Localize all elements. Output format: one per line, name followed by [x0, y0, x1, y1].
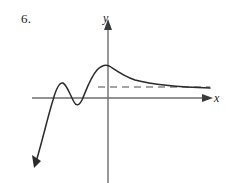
x-axis-label: x: [213, 91, 220, 105]
figure-container: 6. x y: [0, 0, 230, 183]
x-axis-arrowhead: [202, 94, 213, 102]
y-axis-label: y: [102, 11, 109, 25]
curve-left-arrowhead: [32, 155, 41, 168]
function-curve: [36, 65, 210, 162]
graph-plot: x y: [0, 0, 230, 183]
